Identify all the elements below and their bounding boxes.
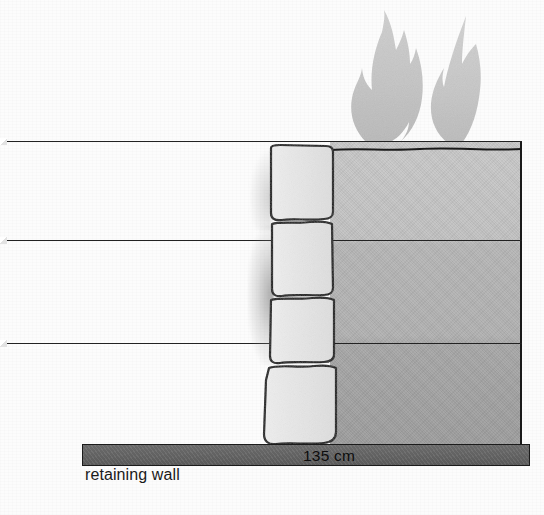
figure-canvas: 135 cm retaining wall — [0, 0, 544, 515]
stone-block-2 — [272, 222, 333, 297]
flame-group — [330, 2, 520, 147]
strata-notch-1 — [0, 138, 7, 145]
retaining-wall-bar: 135 cm — [82, 444, 530, 466]
stone-block-1 — [271, 145, 333, 220]
strata-notch-3 — [0, 340, 7, 347]
stone-column — [258, 140, 344, 452]
stone-block-4 — [264, 366, 336, 445]
flame-left-icon — [351, 10, 423, 143]
retaining-wall-caption: retaining wall — [85, 466, 180, 484]
flame-right-icon — [431, 16, 481, 143]
stone-block-3 — [270, 298, 334, 364]
strata-notch-2 — [0, 237, 7, 244]
soil-mass — [330, 141, 522, 445]
dimension-label: 135 cm — [83, 445, 531, 467]
